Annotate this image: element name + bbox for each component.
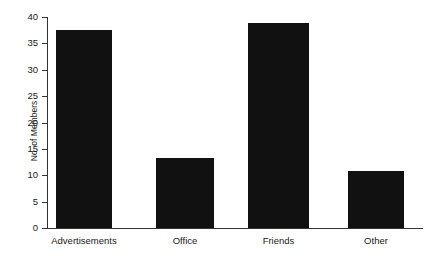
x-axis-tick-label: Other [316,236,436,246]
y-axis-tick-label: 10 [14,170,38,180]
y-axis-tick-label: 0 [14,223,38,233]
bar-chart-figure: No. of Members 0510152025303540 Advertis… [0,0,437,261]
y-axis-tick-label: 15 [14,144,38,154]
y-axis-tick-label: 40 [14,12,38,22]
bar [156,158,214,228]
y-axis-tick-label: 5 [14,197,38,207]
y-axis-tick-label: 20 [14,118,38,128]
y-axis-tick-label: 35 [14,38,38,48]
y-axis-tick-label: 30 [14,65,38,75]
x-axis-line [48,228,423,229]
plot-area [48,17,423,228]
bar [248,23,309,228]
bar [348,171,404,228]
y-axis-tick-mark [42,228,48,229]
bar [56,30,112,228]
y-axis-tick-label: 25 [14,91,38,101]
